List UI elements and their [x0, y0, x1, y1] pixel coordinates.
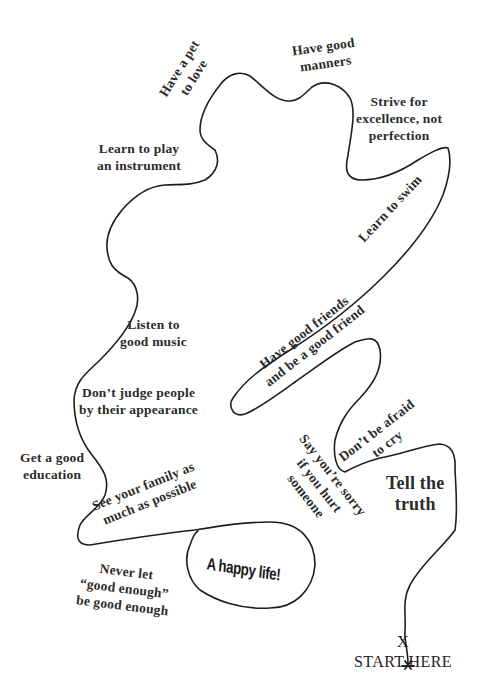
- milestone-line: Listen to: [120, 316, 187, 333]
- milestone-line: truth: [386, 494, 444, 515]
- milestone-line: good music: [120, 333, 187, 350]
- start-label: START HERE: [354, 652, 452, 672]
- milestone-tell-truth: Tell the truth: [386, 473, 444, 515]
- milestone-line: perfection: [356, 127, 442, 144]
- milestone-dont-judge: Don’t judge people by their appearance: [79, 384, 198, 418]
- milestone-education: Get a good education: [20, 449, 84, 483]
- milestone-line: Learn to play: [97, 140, 181, 157]
- milestone-instrument: Learn to play an instrument: [97, 140, 181, 174]
- milestone-line: Tell the: [386, 473, 444, 494]
- milestone-line: by their appearance: [79, 401, 198, 418]
- milestone-line: an instrument: [97, 157, 181, 174]
- milestone-line: Get a good: [20, 449, 84, 466]
- start-marker-x: X: [354, 632, 452, 652]
- milestone-music: Listen to good music: [120, 316, 187, 350]
- life-road-map: Have a pet to love Have good manners Str…: [0, 0, 490, 698]
- milestone-line: excellence, not: [356, 110, 442, 127]
- milestone-line: education: [20, 466, 84, 483]
- milestone-strive: Strive for excellence, not perfection: [356, 93, 442, 144]
- milestone-line: Don’t judge people: [79, 384, 198, 401]
- start-here: X START HERE: [354, 632, 452, 672]
- milestone-line: Strive for: [356, 93, 442, 110]
